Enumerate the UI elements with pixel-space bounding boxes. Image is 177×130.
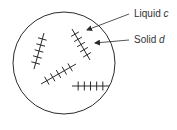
dendrite-lower-right <box>72 82 109 91</box>
leader-lines <box>87 14 129 43</box>
dendrite-arm <box>77 42 85 47</box>
solid-arrow-icon <box>95 40 129 43</box>
dendrite-arm <box>50 73 54 81</box>
dendrite-arm <box>68 63 72 71</box>
dendrite-left <box>31 33 46 69</box>
dendrite-middle <box>41 63 76 84</box>
dendrite-group <box>31 29 109 91</box>
dendrite-arm <box>71 32 79 37</box>
dendrite-arm <box>80 47 88 52</box>
dendrite-arm <box>74 37 82 42</box>
solid-label-text: Solid <box>134 34 156 45</box>
liquid-arrow-icon <box>87 14 129 30</box>
liquid-label: Liquid c <box>134 9 168 19</box>
dendrite-arm <box>56 70 60 78</box>
liquid-label-variable: c <box>163 8 168 19</box>
diagram-canvas <box>0 0 177 130</box>
liquid-label-text: Liquid <box>134 8 161 19</box>
dendrite-arm <box>83 53 91 58</box>
solid-label-variable: d <box>159 34 165 45</box>
grain-boundary-circle <box>13 12 115 114</box>
dendrite-arm <box>45 77 49 85</box>
dendrite-upper-right <box>71 29 91 60</box>
dendrite-arm <box>62 67 66 75</box>
solid-label: Solid d <box>134 35 165 45</box>
